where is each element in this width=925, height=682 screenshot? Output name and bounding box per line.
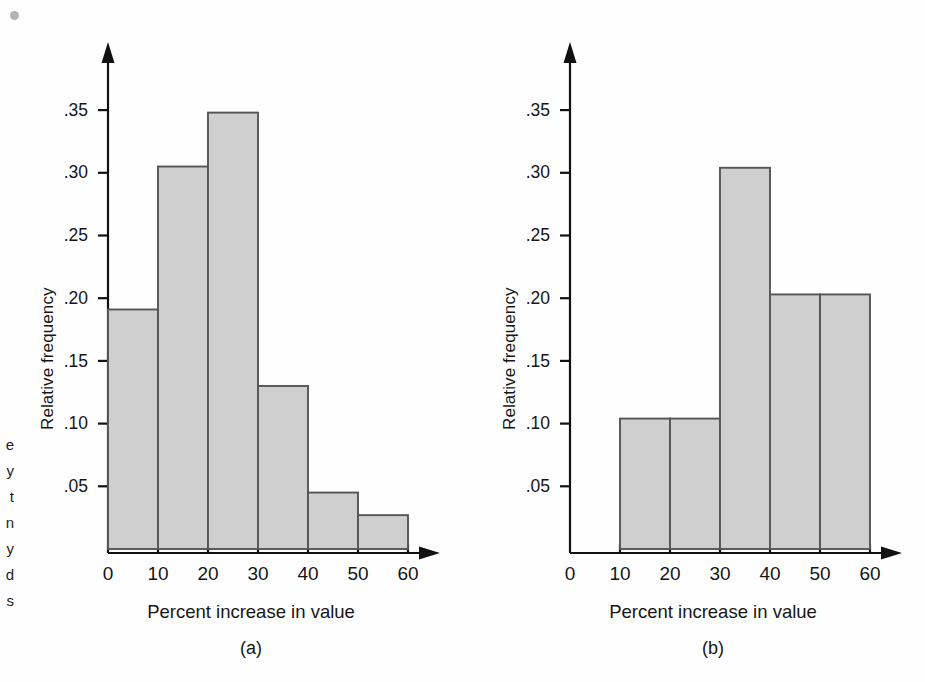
x-tick-label-b: 30 [709,563,730,584]
y-tick-label-b: .20 [526,288,551,308]
y-tick-label-b: .35 [526,100,550,120]
figure-page: eytnyds Relative frequency .05.10.15.20.… [0,0,925,682]
histogram-panel-a: Relative frequency .05.10.15.20.25.30.35… [0,0,462,682]
histogram-bar [720,168,770,549]
y-axis-arrow-b [564,42,577,63]
y-tick-label-b: .15 [526,351,550,371]
histogram-panel-b: Relative frequency .05.10.15.20.25.30.35… [462,0,924,682]
y-tick-label-a: .30 [64,162,89,182]
x-tick-label-a: 20 [197,563,218,584]
x-tick-label-a: 0 [103,563,114,584]
histogram-bar [258,386,308,549]
x-tick-label-b: 60 [859,563,880,584]
x-axis-label-a: Percent increase in value [0,601,462,623]
y-axis-arrow-a [102,42,115,63]
x-axis-arrow-a [419,547,440,560]
x-tick-label-b: 50 [809,563,830,584]
chart-svg-b: .05.10.15.20.25.30.350102030405060 [462,0,924,600]
y-tick-label-b: .25 [526,225,550,245]
x-tick-label-a: 50 [347,563,368,584]
y-tick-label-b: .05 [526,476,550,496]
plot-area-a: .05.10.15.20.25.30.350102030405060 [0,0,462,600]
x-axis-label-b: Percent increase in value [462,601,924,623]
x-tick-label-a: 10 [147,563,168,584]
x-tick-label-a: 30 [247,563,268,584]
y-tick-label-a: .25 [64,225,88,245]
panel-caption-b: (b) [462,638,924,659]
histogram-bar [358,515,408,549]
histogram-bar [620,419,670,549]
histogram-bar [308,493,358,549]
y-tick-label-b: .30 [526,162,551,182]
y-tick-label-b: .10 [526,413,551,433]
histogram-bar [208,113,258,549]
x-tick-label-b: 10 [609,563,630,584]
histogram-bar [158,167,208,549]
x-tick-label-b: 40 [759,563,780,584]
chart-svg-a: .05.10.15.20.25.30.350102030405060 [0,0,462,600]
y-tick-label-a: .10 [64,413,89,433]
y-tick-label-a: .15 [64,351,88,371]
histogram-bar [108,309,158,549]
x-tick-label-a: 60 [397,563,418,584]
plot-area-b: .05.10.15.20.25.30.350102030405060 [462,0,924,600]
histogram-bar [670,419,720,549]
x-tick-label-b: 20 [659,563,680,584]
y-tick-label-a: .20 [64,288,89,308]
y-tick-label-a: .35 [64,100,88,120]
panel-caption-a: (a) [0,638,462,659]
histogram-bar [770,294,820,549]
y-tick-label-a: .05 [64,476,88,496]
x-tick-label-b: 0 [565,563,576,584]
x-axis-arrow-b [881,547,902,560]
x-tick-label-a: 40 [297,563,318,584]
histogram-bar [820,294,870,549]
